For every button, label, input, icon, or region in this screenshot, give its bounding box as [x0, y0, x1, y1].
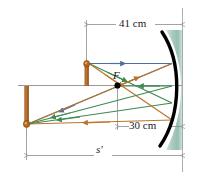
ray-diagram-figure: 41 cm 30 cm s' F: [0, 0, 202, 181]
image-arrow: [23, 86, 30, 128]
object-arrow: [84, 60, 90, 86]
dimension-41cm-label: 41 cm: [119, 18, 146, 29]
dimension-s-prime-label: s': [96, 144, 103, 155]
ray-to-vertex-orange: [28, 64, 172, 125]
focal-point-dot: [114, 82, 120, 88]
focal-point-label: F: [113, 70, 120, 81]
dimension-30cm-label: 30 cm: [129, 120, 156, 131]
